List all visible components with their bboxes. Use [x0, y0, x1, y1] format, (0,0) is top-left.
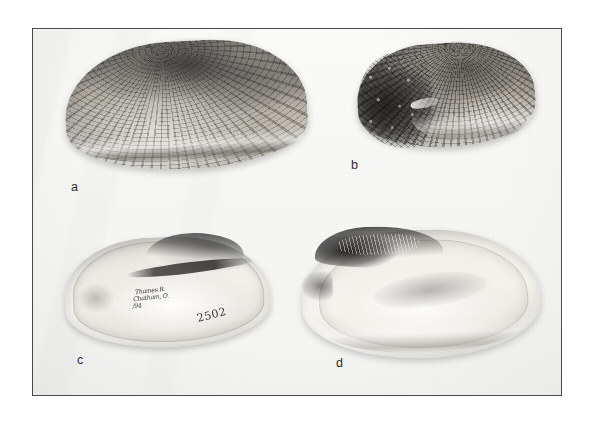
figure-plate: a b Thames R. Chatham, O.	[32, 28, 562, 396]
panel-caption-a: a	[71, 181, 78, 194]
panel-c: Thames R. Chatham, O. /94 2502 c	[53, 219, 283, 384]
panel-caption-d: d	[336, 357, 343, 370]
label-line-3: /94	[132, 302, 142, 309]
shell-specimen-a	[62, 35, 310, 175]
panel-a: a	[47, 31, 307, 211]
panel-caption-c: c	[77, 354, 83, 367]
page-background: a b Thames R. Chatham, O.	[0, 0, 590, 424]
beak-cavity-d	[301, 271, 333, 300]
shell-specimen-b	[354, 37, 539, 153]
panel-caption-b: b	[351, 159, 358, 172]
shell-specimen-d	[300, 226, 542, 362]
shell-specimen-c: Thames R. Chatham, O. /94 2502	[63, 233, 272, 350]
panel-d: d	[288, 214, 548, 389]
panel-b: b	[333, 31, 548, 191]
ventral-margin-d	[317, 316, 530, 357]
